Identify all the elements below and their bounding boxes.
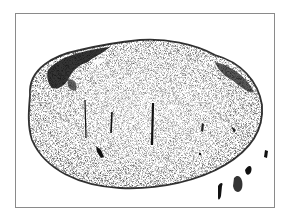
incision-3 (152, 103, 153, 145)
incision-2 (111, 112, 112, 133)
pebble-drawing (0, 0, 290, 219)
illustration (0, 0, 290, 219)
speck (199, 153, 201, 155)
